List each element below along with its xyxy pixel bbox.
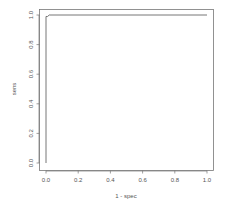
x-tick-label: 0.4: [106, 177, 115, 183]
y-tick-label: 1.0: [28, 10, 34, 19]
x-axis-title: 1 - spec: [115, 193, 136, 199]
y-axis: 0.00.20.40.60.81.0: [28, 10, 40, 167]
x-tick-label: 1.0: [203, 177, 212, 183]
x-tick-label: 0.2: [74, 177, 83, 183]
y-tick-label: 0.8: [28, 40, 34, 49]
x-axis: 0.00.20.40.60.81.0: [42, 171, 212, 183]
x-tick-label: 0.8: [171, 177, 180, 183]
x-tick-label: 0.6: [138, 177, 147, 183]
x-tick-label: 0.0: [42, 177, 51, 183]
y-tick-label: 0.0: [28, 158, 34, 167]
y-tick-label: 0.6: [28, 69, 34, 78]
roc-curve: [46, 15, 207, 163]
roc-plot: 0.00.20.40.60.81.0 0.00.20.40.60.81.0 1 …: [0, 0, 229, 213]
roc-line: [46, 15, 207, 163]
y-axis-title: sens: [11, 83, 17, 96]
y-tick-label: 0.4: [28, 99, 34, 108]
y-tick-label: 0.2: [28, 129, 34, 138]
plot-frame: [40, 10, 214, 171]
